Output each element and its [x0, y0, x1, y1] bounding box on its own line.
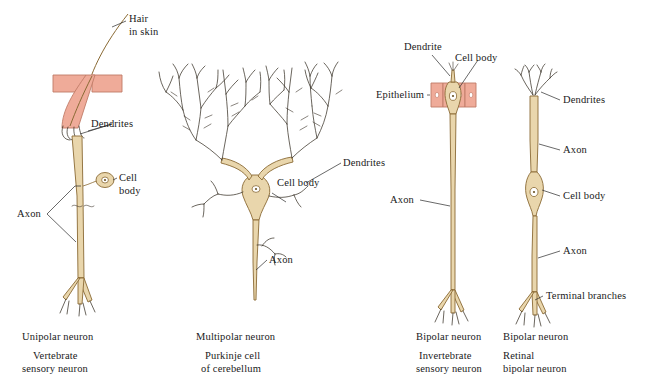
terminal-twig-1 — [60, 299, 66, 313]
label-retinal-axon-upper: Axon — [563, 144, 587, 157]
terminal-twig-4 — [83, 303, 86, 315]
caption-unipolar-type: Unipolar neuron — [22, 330, 93, 343]
caption-unipolar-example-line1: Vertebrate — [33, 349, 78, 362]
dendritic-arbor-right — [266, 62, 338, 158]
caption-bipolar-invertebrate-example-line1: Invertebrate — [419, 349, 472, 362]
caption-bipolar-retinal-example-line2: bipolar neuron — [503, 362, 567, 375]
leader-ret-axon-upper — [539, 144, 560, 150]
terminal-twig-3 — [79, 304, 80, 316]
skin-slab-right — [92, 75, 122, 92]
terminal-twig-2 — [67, 301, 69, 314]
leader-inv-axon — [420, 200, 450, 206]
label-retinal-axon-lower: Axon — [563, 245, 587, 258]
label-retinal-cell-body: Cell body — [563, 190, 605, 203]
caption-bipolar-invertebrate-type: Bipolar neuron — [416, 330, 481, 343]
retinal-bipolar-illustration — [515, 64, 560, 327]
dendrite-tip-3 — [454, 64, 458, 70]
caption-multipolar-type: Multipolar neuron — [196, 330, 275, 343]
dendritic-arbor-left — [159, 64, 261, 160]
invertebrate-dendrite — [451, 70, 455, 82]
retinal-axon — [532, 216, 537, 292]
label-purkinje-dendrites: Dendrites — [343, 157, 385, 170]
leader-inv-dendrite — [432, 55, 450, 76]
node-right — [84, 205, 94, 207]
epithelial-nucleus-1 — [435, 92, 439, 97]
terminal-twig-5 — [90, 301, 95, 312]
unipolar-neuron-illustration — [47, 14, 128, 316]
invertebrate-bipolar-illustration — [420, 55, 478, 325]
label-hair-in-skin-line1: Hair — [129, 13, 148, 26]
terminal-branch-mid — [78, 278, 84, 304]
dendrite-tip-1 — [449, 63, 452, 70]
dendritic-spines — [171, 88, 342, 130]
unipolar-axon-shaft — [72, 136, 84, 278]
label-invertebrate-cell-body: Cell body — [455, 52, 497, 65]
label-purkinje-axon: Axon — [269, 254, 293, 267]
invertebrate-nucleolus — [452, 95, 454, 97]
label-unipolar-cell-body-line1: Cell — [119, 172, 137, 185]
retinal-upper-process — [530, 96, 538, 172]
leader-ret-axon-lower — [538, 251, 560, 258]
purkinje-nucleolus — [255, 188, 257, 190]
invertebrate-axon — [450, 114, 456, 290]
caption-bipolar-retinal-example-line1: Retinal — [503, 349, 534, 362]
label-retinal-dendrites: Dendrites — [563, 94, 605, 107]
terminal-branch-l1 — [63, 278, 80, 300]
label-purkinje-cell-body: Cell body — [277, 177, 319, 190]
leader-axon-upper — [47, 186, 81, 214]
purkinje-axon — [253, 220, 259, 300]
caption-bipolar-invertebrate-example-line2: sensory neuron — [416, 362, 482, 375]
epithelial-nucleus-4 — [469, 92, 473, 97]
leader-purkinje-axon — [256, 260, 267, 270]
label-unipolar-dendrites: Dendrites — [91, 118, 133, 131]
leader-ret-cell-body — [542, 190, 560, 196]
inv-terminal-m — [451, 290, 455, 313]
primary-dendrite-left — [221, 158, 252, 180]
retinal-dendrite-tuft — [515, 64, 557, 95]
label-terminal-branches: Terminal branches — [546, 290, 626, 303]
label-invertebrate-dendrite: Dendrite — [404, 41, 442, 54]
label-epithelium: Epithelium — [376, 89, 424, 102]
label-invertebrate-axon: Axon — [390, 194, 414, 207]
label-unipolar-cell-body-line2: body — [119, 185, 141, 198]
caption-bipolar-retinal-type: Bipolar neuron — [503, 330, 568, 343]
neuron-types-figure: .nfill { fill: #e9d6ac; stroke: #8a6a34;… — [0, 0, 650, 388]
leader-axon-lower — [47, 214, 76, 242]
caption-unipolar-example-line2: sensory neuron — [22, 362, 88, 375]
unipolar-nucleolus — [104, 179, 106, 181]
caption-multipolar-example-line2: of cerebellum — [201, 362, 261, 375]
ret-terminal-l — [519, 292, 534, 312]
label-hair-in-skin-line2: in skin — [129, 26, 158, 39]
caption-multipolar-example-line1: Purkinje cell — [205, 349, 260, 362]
retinal-nucleolus — [533, 191, 535, 193]
purkinje-soma — [242, 175, 270, 220]
leader-ret-dendrites — [541, 92, 560, 100]
label-unipolar-axon: Axon — [17, 208, 41, 221]
ret-terminal-m — [532, 292, 537, 315]
